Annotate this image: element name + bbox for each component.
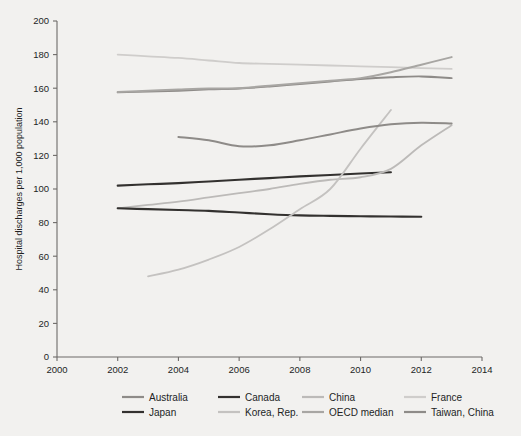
x-tick-label: 2014: [471, 364, 492, 375]
legend-item-japan: Japan: [122, 407, 176, 418]
chart-container: 0204060801001201401601802002000200220042…: [0, 0, 521, 436]
legend-label-oecd-median: OECD median: [329, 407, 393, 418]
y-tick-label: 160: [33, 83, 49, 94]
series-line-france: [118, 55, 452, 69]
x-tick-label: 2006: [229, 364, 250, 375]
series-line-japan: [118, 208, 422, 216]
series-line-korea-rep: [148, 110, 391, 276]
series-line-china: [118, 125, 452, 208]
legend-label-france: France: [431, 392, 463, 403]
legend-item-oecd-median: OECD median: [302, 407, 393, 418]
line-chart: 0204060801001201401601802002000200220042…: [0, 0, 521, 436]
axis-layer: 0204060801001201401601802002000200220042…: [14, 15, 493, 375]
legend-label-canada: Canada: [245, 392, 280, 403]
y-tick-label: 200: [33, 15, 49, 26]
legend-item-taiwan-china: Taiwan, China: [404, 407, 494, 418]
legend-item-china: China: [302, 392, 356, 403]
legend-item-korea-rep: Korea, Rep.: [218, 407, 298, 418]
legend-item-australia: Australia: [122, 392, 188, 403]
y-tick-label: 100: [33, 183, 49, 194]
y-axis-title: Hospital discharges per 1,000 population: [14, 107, 24, 270]
x-tick-label: 2012: [411, 364, 432, 375]
y-tick-label: 120: [33, 150, 49, 161]
series-line-taiwan-china: [178, 123, 451, 147]
x-tick-label: 2010: [350, 364, 371, 375]
x-tick-label: 2004: [168, 364, 189, 375]
legend-item-canada: Canada: [218, 392, 280, 403]
legend-label-taiwan-china: Taiwan, China: [431, 407, 494, 418]
legend-label-australia: Australia: [149, 392, 188, 403]
y-tick-label: 20: [38, 318, 49, 329]
y-tick-label: 80: [38, 217, 49, 228]
y-tick-label: 180: [33, 49, 49, 60]
series-layer: [118, 55, 452, 277]
legend-label-japan: Japan: [149, 407, 176, 418]
legend-label-china: China: [329, 392, 356, 403]
y-tick-label: 60: [38, 251, 49, 262]
x-tick-label: 2008: [289, 364, 310, 375]
x-tick-label: 2000: [46, 364, 67, 375]
legend-item-france: France: [404, 392, 463, 403]
x-tick-label: 2002: [107, 364, 128, 375]
legend-layer: AustraliaCanadaChinaFranceJapanKorea, Re…: [122, 392, 494, 418]
y-tick-label: 140: [33, 116, 49, 127]
series-line-oecd-median: [118, 57, 452, 92]
legend-label-korea-rep: Korea, Rep.: [245, 407, 298, 418]
y-tick-label: 40: [38, 284, 49, 295]
y-tick-label: 0: [44, 351, 49, 362]
